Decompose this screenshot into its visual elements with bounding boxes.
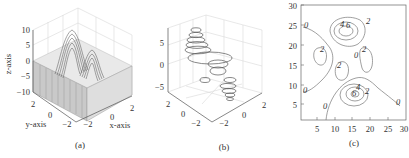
contour-label: 4: [340, 19, 345, 29]
y-tick: 25: [289, 21, 298, 31]
y-tick: 2: [31, 99, 35, 109]
contour-label: 2: [362, 44, 367, 54]
z-tick: −10: [17, 87, 30, 97]
x-tick: 2: [130, 103, 134, 113]
contour-label: 6: [346, 20, 351, 30]
y-axis-label: y-axis: [26, 119, 47, 129]
y-tick: 0: [181, 109, 185, 119]
contour-label: 4: [356, 82, 361, 92]
y-tick: 10: [289, 81, 298, 91]
z-tick: 10: [22, 25, 31, 35]
x-tick: −2: [219, 118, 228, 128]
contour-label: 0: [396, 97, 401, 107]
caption-a: (a): [75, 140, 85, 150]
panel-b: 5 0 −5 2 0 −2 −2 0 2 (b): [140, 0, 270, 158]
x-tick: 15: [348, 124, 357, 134]
panel-c: 30 25 20 15 10 5 5 10 15 20 25 30: [270, 0, 409, 158]
contour-label: 0: [323, 101, 328, 111]
x-tick: 20: [366, 124, 375, 134]
caption-b: (b): [219, 142, 230, 152]
z-axis-label: z-axis: [3, 54, 13, 74]
y-tick: 5: [293, 100, 297, 110]
z-tick: −5: [21, 71, 30, 81]
y-tick: −2: [62, 119, 71, 129]
x-tick: 2: [262, 100, 266, 110]
contour-label: 0: [354, 50, 359, 60]
y-tick: 30: [289, 1, 298, 11]
x-tick: 10: [331, 124, 340, 134]
y-tick: 15: [289, 61, 298, 71]
caption-c: (c): [349, 138, 359, 148]
z-tick: 0: [26, 56, 30, 66]
contour3d-plot: 5 0 −5 2 0 −2 −2 0 2 (b): [140, 0, 270, 158]
x-tick: 25: [384, 124, 393, 134]
mesh-surface-plot: 10 5 0 −5 −10 z-axis 2 0 −2 y-axis −2 0 …: [0, 0, 140, 158]
contour-label: 0: [303, 85, 308, 95]
x-tick: −2: [83, 119, 92, 129]
contour-label: 2: [365, 86, 370, 96]
x-tick: 30: [400, 124, 409, 134]
y-tick: 0: [48, 110, 52, 120]
contour2d-plot: 30 25 20 15 10 5 5 10 15 20 25 30: [270, 0, 409, 158]
y-tick: −2: [191, 118, 200, 128]
x-tick: 0: [242, 110, 246, 120]
z-tick: −5: [155, 82, 164, 92]
panel-a: 10 5 0 −5 −10 z-axis 2 0 −2 y-axis −2 0 …: [0, 0, 140, 158]
y-tick: 20: [289, 41, 298, 51]
z-tick: 5: [26, 40, 30, 50]
y-tick: 2: [166, 99, 170, 109]
contour-label: 2: [366, 16, 371, 26]
z-tick: 0: [160, 60, 164, 70]
z-tick: 5: [160, 38, 164, 48]
x-axis-label: x-axis: [110, 120, 131, 130]
x-tick: 5: [315, 124, 319, 134]
